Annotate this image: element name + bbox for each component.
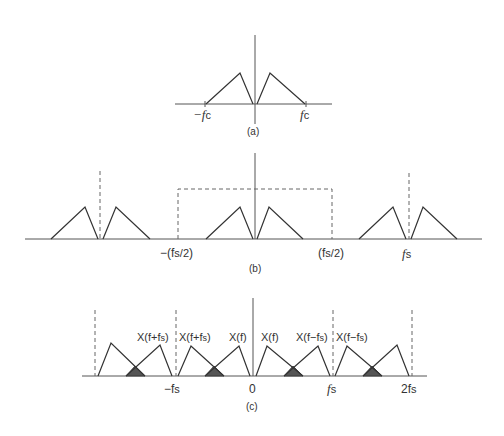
sampling-spectrum-diagram: −fc fc (a) −(fs/2) (fs/2) fs (b) [0, 0, 504, 436]
label-x-f-plus-fs-2: X(f+fs) [179, 331, 211, 343]
baseband-left [206, 207, 253, 239]
label-neg-fc: −fc [193, 107, 211, 122]
label-zero: 0 [249, 382, 256, 396]
replica-neg-fs-right [103, 207, 150, 239]
panel-b: −(fs/2) (fs/2) fs (b) [25, 153, 482, 274]
label-fs-c: fs [327, 381, 337, 396]
replica-neg-fs-left [51, 207, 98, 239]
spectrum-right-half-a [257, 73, 305, 104]
caption-c: (c) [246, 401, 258, 412]
baseband-right [257, 207, 303, 239]
label-x-f-2: X(f) [261, 331, 279, 343]
label-pos-half-fs: (fs/2) [318, 246, 344, 260]
replica-fs-left [359, 207, 406, 239]
label-2fs-c: 2fs [401, 382, 417, 396]
label-fc: fc [300, 107, 310, 122]
label-fs-b: fs [402, 246, 412, 261]
label-x-f-minus-fs-2: X(f−fs) [336, 331, 368, 343]
label-neg-fs-c: −fs [164, 382, 180, 396]
spectrum-left-half-a [206, 73, 253, 104]
replica-fs-right [411, 207, 457, 239]
panel-a: −fc fc (a) [175, 35, 332, 137]
panel-c: X(f+fs) X(f+fs) X(f) X(f) X(f−fs) X(f−fs… [82, 298, 427, 412]
caption-a: (a) [247, 126, 259, 137]
label-x-f-plus-fs-1: X(f+fs) [137, 331, 169, 343]
label-x-f-minus-fs-1: X(f−fs) [296, 331, 328, 343]
label-neg-half-fs: −(fs/2) [160, 246, 193, 260]
caption-b: (b) [249, 263, 261, 274]
label-x-f-1: X(f) [229, 331, 247, 343]
